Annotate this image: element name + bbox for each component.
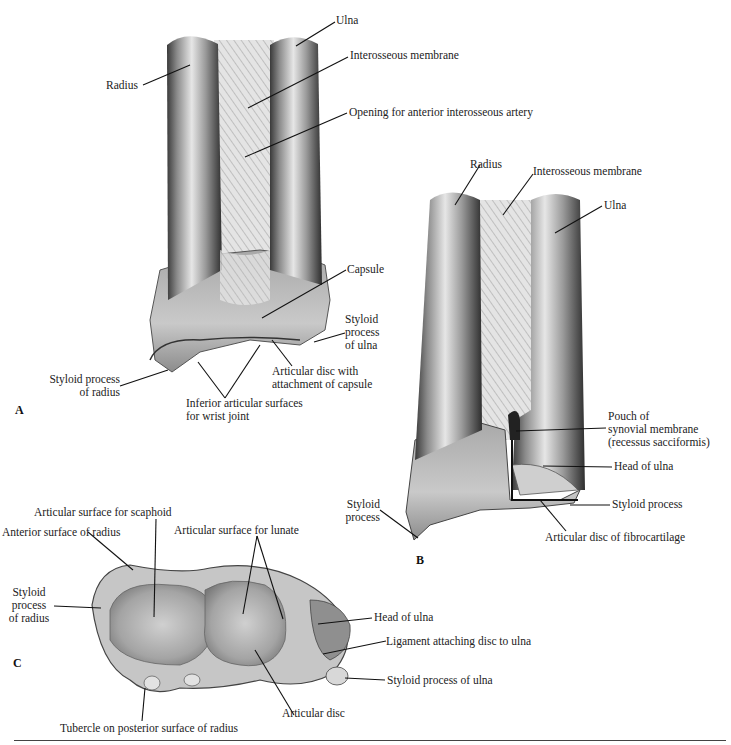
radius-shaft-a [167,36,222,300]
label-b-interosseous-membrane: Interosseous membrane [533,165,642,178]
label-b-pouch: Pouch of synovial membrane (recessus sac… [608,410,710,449]
label-c-anterior-surface: Anterior surface of radius [2,526,120,539]
label-a-styloid-ulna: Styloid process of ulna [345,313,380,352]
lunate-facet [204,581,285,666]
anatomy-figure: Ulna Interosseous membrane Opening for a… [0,0,731,745]
label-c-styloid-radius: Styloid process of radius [0,586,58,625]
panel-c-drawing [92,565,350,692]
label-b-ulna: Ulna [604,199,626,212]
label-a-articular-disc-capsule: Articular disc with attachment of capsul… [272,365,372,391]
scaphoid-facet [110,584,215,665]
panel-a-drawing [150,36,330,372]
panel-letter-b: B [416,553,424,568]
label-c-articular-disc: Articular disc [282,707,345,720]
interosseous-membrane-a [214,40,274,280]
pouch-b [508,411,520,440]
label-a-opening-artery: Opening for anterior interosseous artery [349,106,533,119]
label-c-scaphoid: Articular surface for scaphoid [34,506,172,519]
panel-letter-c: C [13,656,22,671]
label-b-styloid-process: Styloid process [612,498,683,511]
label-c-styloid-ulna: Styloid process of ulna [387,674,493,687]
radius-shaft-b [415,193,482,461]
label-a-ulna: Ulna [336,14,358,27]
bottom-rule [14,740,726,741]
label-c-ligament: Ligament attaching disc to ulna [386,635,531,648]
label-c-tubercle: Tubercle on posterior surface of radius [60,722,238,735]
label-c-lunate: Articular surface for lunate [174,524,299,537]
label-a-inferior-articular: Inferior articular surfaces for wrist jo… [186,397,303,423]
label-b-radius: Radius [470,158,502,171]
label-c-head-of-ulna: Head of ulna [374,611,433,624]
label-a-interosseous-membrane: Interosseous membrane [350,49,459,62]
label-b-head-of-ulna: Head of ulna [614,460,673,473]
label-b-styloid-radius: Styloid process [330,498,380,524]
label-a-styloid-radius: Styloid process of radius [38,373,120,399]
label-b-articular-disc-fibro: Articular disc of fibrocartilage [545,531,685,544]
label-a-capsule: Capsule [347,263,384,276]
panel-letter-a: A [15,403,24,418]
panel-b-drawing [406,193,585,541]
label-a-radius: Radius [106,79,138,92]
